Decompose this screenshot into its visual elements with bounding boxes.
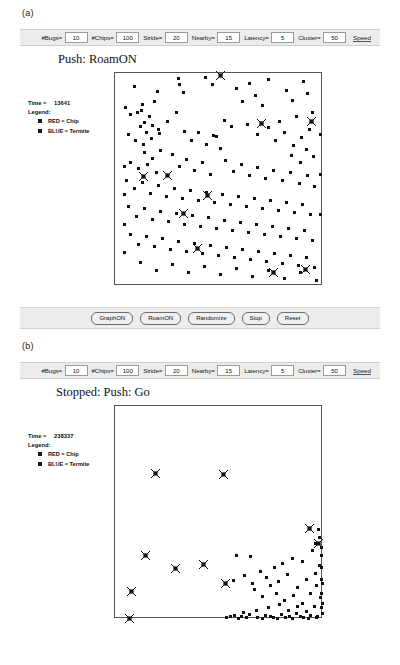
chip-marker [291, 99, 294, 102]
chip-marker [257, 250, 260, 253]
chip-marker [139, 125, 142, 128]
chip-marker [247, 231, 250, 234]
termite-marker [256, 118, 267, 129]
chip-marker [232, 170, 235, 173]
graph-toggle-button[interactable]: GraphON [91, 312, 133, 325]
chip-marker [251, 275, 254, 278]
chip-marker [261, 104, 264, 107]
chip-marker [313, 185, 316, 188]
chip-marker [231, 229, 234, 232]
chip-marker [278, 120, 281, 123]
chip-marker [272, 616, 275, 619]
param-chips-input[interactable]: 100 [116, 32, 139, 43]
chip-marker [151, 124, 154, 127]
chip-marker [240, 615, 243, 618]
chip-marker [256, 166, 259, 169]
chip-marker [320, 566, 323, 569]
chip-marker [259, 570, 262, 573]
termite-marker [162, 170, 173, 181]
param-nearby-input[interactable]: 15 [217, 365, 240, 376]
chip-marker [253, 588, 256, 591]
chip-marker [177, 77, 180, 80]
param-chips-input[interactable]: 100 [116, 365, 139, 376]
chip-marker [178, 165, 181, 168]
panel-a-button-bar: GraphON RoamON Randomize Stop Reset [20, 307, 380, 329]
chip-marker [193, 169, 196, 172]
chip-marker [248, 613, 251, 616]
chip-marker [249, 555, 252, 558]
chip-marker [273, 252, 276, 255]
chip-marker [204, 76, 207, 79]
param-nearby-input[interactable]: 15 [217, 32, 240, 43]
chip-marker [127, 133, 130, 136]
chip-marker [201, 161, 204, 164]
chip-marker [299, 615, 302, 618]
panel-b-status-text: Stopped: Push: Go [56, 385, 150, 400]
chip-marker [315, 584, 318, 587]
reset-button[interactable]: Reset [277, 312, 309, 325]
chip-marker [219, 273, 222, 276]
chip-marker [209, 173, 212, 176]
panel-b-legend: Time = 238337 Legend: RED = Chip BLUE = … [28, 433, 110, 471]
param-bugs: #Bugs= 10 [41, 365, 87, 376]
chip-marker [134, 139, 137, 142]
chip-marker [140, 109, 143, 112]
chip-marker [277, 580, 280, 583]
chip-marker [302, 80, 305, 83]
chip-marker [295, 612, 298, 615]
chip-marker [156, 90, 159, 93]
chip-marker [235, 267, 238, 270]
param-stride-input[interactable]: 20 [165, 32, 188, 43]
chip-marker [269, 199, 272, 202]
chip-marker [284, 616, 287, 619]
chip-marker [225, 246, 228, 249]
speed-link[interactable]: Speed [353, 367, 371, 375]
speed-link[interactable]: Speed [353, 34, 371, 42]
chip-marker [136, 111, 139, 114]
chip-marker [299, 161, 302, 164]
termite-marker [140, 550, 151, 561]
chip-marker [223, 219, 226, 222]
chip-marker [129, 233, 132, 236]
param-cluster-input[interactable]: 50 [323, 32, 346, 43]
chip-marker [239, 221, 242, 224]
chip-marker [209, 244, 212, 247]
chip-marker [255, 609, 258, 612]
randomize-button[interactable]: Randomize [188, 312, 234, 325]
stop-button[interactable]: Stop [242, 312, 270, 325]
termite-marker [192, 243, 203, 254]
chip-marker [313, 605, 316, 608]
legend-title: Legend: [28, 109, 110, 115]
termite-marker [170, 563, 181, 574]
chip-marker [219, 147, 222, 150]
termite-marker [202, 190, 213, 201]
param-nearby-label: Nearby= [192, 367, 215, 374]
panel-b-simulation-canvas[interactable] [114, 405, 322, 618]
param-latency-input[interactable]: 5 [271, 365, 294, 376]
panel-a-simulation-canvas[interactable] [114, 72, 322, 285]
param-cluster-input[interactable]: 50 [323, 365, 346, 376]
param-latency-input[interactable]: 5 [271, 32, 294, 43]
chip-marker [159, 149, 162, 152]
chip-marker [133, 85, 136, 88]
chip-marker [203, 265, 206, 268]
termite-marker [268, 267, 279, 278]
chip-marker [261, 617, 264, 620]
chip-marker [237, 195, 240, 198]
panel-b-parameter-toolbar: #Bugs= 10 #Chips= 100 Stride= 20 Nearby=… [20, 362, 380, 379]
panel-a-legend: Time = 13641 Legend: RED = Chip BLUE = T… [28, 100, 110, 138]
chip-marker [267, 126, 270, 129]
chip-marker [129, 113, 132, 116]
param-stride-input[interactable]: 20 [165, 365, 188, 376]
panel-a-parameter-toolbar: #Bugs= 10 #Chips= 100 Stride= 20 Nearby=… [20, 29, 380, 46]
chip-marker [245, 205, 248, 208]
blue-square-marker-icon [38, 462, 42, 466]
param-bugs-input[interactable]: 10 [65, 32, 88, 43]
roam-toggle-button[interactable]: RoamON [140, 312, 181, 325]
chip-marker [161, 237, 164, 240]
param-bugs-input[interactable]: 10 [65, 365, 88, 376]
chip-marker [292, 594, 295, 597]
chip-marker [246, 123, 249, 126]
param-latency: Latency= 5 [244, 32, 294, 43]
param-stride-label: Stride= [143, 367, 162, 374]
